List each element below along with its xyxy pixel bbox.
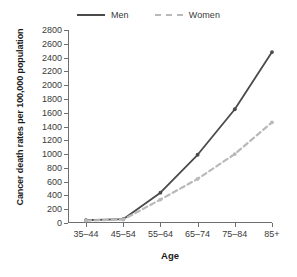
x-tick-mark: [235, 223, 236, 227]
y-tick-label: 400: [47, 190, 62, 200]
y-tick-label: 1200: [42, 135, 62, 145]
y-tick-label: 1600: [42, 108, 62, 118]
x-tick-label: 75–84: [222, 229, 247, 239]
data-point: [159, 191, 163, 195]
chart-legend: Men Women: [0, 6, 297, 24]
data-point: [196, 177, 200, 181]
y-tick-label: 1000: [42, 149, 62, 159]
x-tick-label: 85+: [264, 229, 279, 239]
series-line-women: [86, 122, 272, 220]
x-tick-mark: [123, 223, 124, 227]
x-tick-label: 35–44: [73, 229, 98, 239]
plot-area: 0200400600800100012001400160018002000220…: [68, 30, 272, 223]
legend-entry-women: Women: [155, 10, 220, 20]
data-point: [121, 218, 125, 222]
x-tick-mark: [86, 223, 87, 227]
x-tick-mark: [272, 223, 273, 227]
legend-line-men-icon: [77, 14, 105, 16]
x-axis-title: Age: [68, 250, 272, 261]
y-tick-mark: [64, 223, 68, 224]
x-tick-mark: [160, 223, 161, 227]
data-series-lines: [68, 30, 272, 223]
y-tick-label: 2200: [42, 66, 62, 76]
x-tick-mark: [198, 223, 199, 227]
y-tick-label: 2400: [42, 53, 62, 63]
legend-label-women: Women: [189, 10, 220, 20]
x-tick-label: 65–74: [185, 229, 210, 239]
y-tick-label: 600: [47, 177, 62, 187]
legend-label-men: Men: [111, 10, 129, 20]
y-tick-label: 800: [47, 163, 62, 173]
legend-entry-men: Men: [77, 10, 129, 20]
data-point: [233, 152, 237, 156]
x-tick-label: 45–54: [111, 229, 136, 239]
y-tick-label: 1400: [42, 122, 62, 132]
data-point: [159, 198, 163, 202]
y-tick-label: 2800: [42, 25, 62, 35]
y-axis-title: Cancer death rates per 100,000 populatio…: [15, 12, 25, 222]
series-line-men: [86, 52, 272, 220]
data-point: [196, 153, 200, 157]
y-tick-label: 0: [57, 218, 62, 228]
y-tick-label: 2600: [42, 39, 62, 49]
y-tick-label: 1800: [42, 94, 62, 104]
data-point: [270, 120, 274, 124]
data-point: [270, 50, 274, 54]
legend-line-women-icon: [155, 14, 183, 16]
cancer-death-rate-chart: Men Women Cancer death rates per 100,000…: [0, 0, 297, 277]
x-tick-label: 55–64: [148, 229, 173, 239]
y-tick-label: 200: [47, 204, 62, 214]
data-point: [84, 219, 88, 223]
y-tick-label: 2000: [42, 80, 62, 90]
data-point: [233, 107, 237, 111]
